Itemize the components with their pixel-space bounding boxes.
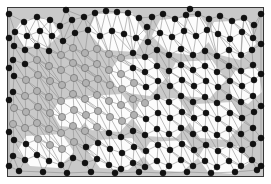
graph-node-interior (57, 51, 64, 58)
graph-node-boundary (215, 148, 221, 154)
graph-node-boundary (149, 14, 155, 20)
graph-node-boundary (229, 18, 235, 24)
graph-node-boundary (136, 169, 142, 175)
graph-node-boundary (11, 43, 17, 49)
graph-node-boundary (215, 31, 221, 37)
graph-node-boundary (238, 131, 244, 137)
graph-node-boundary (169, 34, 175, 40)
graph-node-boundary (258, 71, 264, 77)
graph-node-boundary (249, 157, 255, 163)
graph-node-boundary (6, 97, 12, 103)
graph-node-interior (9, 120, 16, 127)
graph-node-boundary (203, 110, 209, 116)
graph-node-boundary (227, 36, 233, 42)
graph-node-boundary (258, 41, 264, 47)
graph-node-boundary (157, 30, 163, 36)
graph-node-interior (57, 129, 64, 136)
graph-node-boundary (130, 128, 136, 134)
graph-node-boundary (142, 132, 148, 138)
graph-node-interior (57, 66, 64, 73)
graph-node-boundary (166, 99, 172, 105)
graph-node-boundary (103, 8, 109, 14)
graph-node-boundary (34, 14, 40, 20)
graph-node-boundary (155, 110, 161, 116)
graph-node-interior (82, 111, 89, 118)
graph-node-boundary (167, 147, 173, 153)
graph-node-boundary (202, 48, 208, 54)
graph-node-boundary (214, 132, 220, 138)
graph-node-boundary (154, 47, 160, 53)
graph-node-boundary (142, 54, 148, 60)
graph-node-interior (118, 85, 125, 92)
graph-node-boundary (167, 115, 173, 121)
graph-node-boundary (118, 166, 124, 172)
graph-node-boundary (83, 144, 89, 150)
graph-node-boundary (154, 63, 160, 69)
graph-node-boundary (22, 47, 28, 53)
graph-node-interior (141, 99, 148, 106)
graph-node-interior (33, 87, 40, 94)
graph-node-boundary (178, 125, 184, 131)
graph-node-boundary (179, 141, 185, 147)
graph-node-boundary (191, 147, 197, 153)
graph-node-interior (58, 113, 65, 120)
graph-node-interior (33, 56, 40, 63)
graph-node-boundary (238, 68, 244, 74)
graph-node-boundary (144, 24, 150, 30)
graph-node-boundary (190, 67, 196, 73)
graph-node-interior (70, 138, 77, 145)
graph-node-boundary (202, 158, 208, 164)
graph-node-interior (81, 127, 88, 134)
graph-node-interior (93, 60, 100, 67)
graph-node-boundary (178, 157, 184, 163)
graph-node-boundary (214, 164, 220, 170)
graph-node-interior (34, 135, 41, 142)
graph-node-boundary (97, 33, 103, 39)
graph-node-boundary (130, 50, 136, 56)
graph-node-boundary (239, 83, 245, 89)
graph-node-boundary (46, 48, 52, 54)
graph-node-boundary (64, 170, 70, 176)
graph-node-boundary (58, 162, 64, 168)
graph-node-boundary (208, 170, 214, 176)
network-graph-figure: Undirected network graph with black boun… (0, 0, 271, 184)
graph-node-interior (117, 70, 124, 77)
graph-node-boundary (214, 53, 220, 59)
graph-node-boundary (109, 28, 115, 34)
graph-node-interior (93, 45, 100, 52)
graph-node-boundary (40, 169, 46, 175)
graph-node-boundary (34, 152, 40, 158)
graph-node-boundary (155, 78, 161, 84)
graph-node-boundary (107, 146, 113, 152)
graph-node-boundary (178, 62, 184, 68)
graph-node-interior (81, 64, 88, 71)
graph-node-boundary (92, 10, 98, 16)
graph-node-interior (117, 101, 124, 108)
graph-node-boundary (166, 163, 172, 169)
graph-node-boundary (239, 29, 245, 35)
graph-node-boundary (95, 140, 101, 146)
graph-node-interior (70, 106, 77, 113)
graph-node-boundary (166, 52, 172, 58)
graph-node-boundary (10, 153, 16, 159)
graph-node-boundary (160, 11, 166, 17)
graph-node-interior (21, 92, 28, 99)
graph-node-boundary (203, 78, 209, 84)
graph-node-interior (81, 49, 88, 56)
graph-node-interior (22, 76, 29, 83)
graph-node-boundary (145, 39, 151, 45)
graph-node-boundary (49, 33, 55, 39)
graph-node-boundary (238, 99, 244, 105)
graph-node-interior (69, 59, 76, 66)
graph-node-boundary (227, 78, 233, 84)
graph-node-boundary (72, 30, 78, 36)
graph-node-boundary (238, 52, 244, 58)
graph-node-boundary (214, 100, 220, 106)
graph-canvas (0, 0, 271, 184)
graph-node-boundary (226, 94, 232, 100)
graph-node-boundary (193, 33, 199, 39)
graph-node-boundary (22, 157, 28, 163)
graph-node-boundary (6, 129, 12, 135)
graph-node-boundary (6, 163, 12, 169)
graph-node-interior (130, 79, 137, 86)
